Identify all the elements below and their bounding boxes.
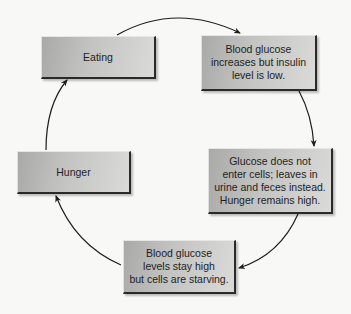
- arrow-not-enter-to-starving: [239, 214, 298, 268]
- cycle-diagram: Eating Blood glucose increases but insul…: [0, 0, 351, 314]
- node-hunger: Hunger: [17, 151, 131, 194]
- node-blood-glucose-increases: Blood glucose increases but insulin leve…: [201, 35, 317, 91]
- node-glucose-not-enter: Glucose does not enter cells; leaves in …: [208, 148, 333, 214]
- arrow-hunger-to-eating: [46, 80, 67, 150]
- node-eating: Eating: [41, 36, 156, 79]
- node-eating-label: Eating: [83, 51, 113, 64]
- node-glucose-not-enter-label: Glucose does not enter cells; leaves in …: [214, 155, 326, 207]
- arrow-eating-to-glucose-increase: [117, 18, 240, 35]
- node-cells-starving-label: Blood glucose levels stay high but cells…: [129, 247, 228, 286]
- node-hunger-label: Hunger: [56, 166, 90, 179]
- arrow-glucose-increase-to-not-enter: [299, 91, 314, 146]
- node-cells-starving: Blood glucose levels stay high but cells…: [123, 240, 236, 294]
- node-blood-glucose-increases-label: Blood glucose increases but insulin leve…: [211, 43, 306, 82]
- arrow-starving-to-hunger: [56, 196, 121, 265]
